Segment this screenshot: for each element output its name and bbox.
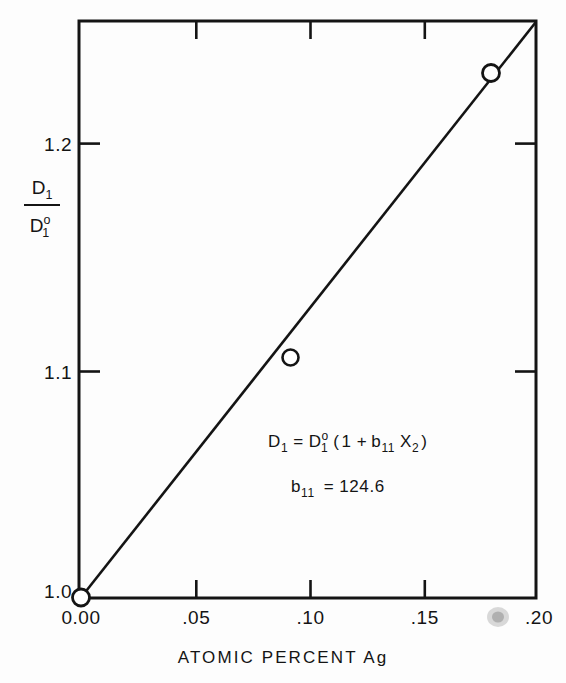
x-tick-label-0.20: .20 [525, 607, 553, 628]
x-tick-label-0.05: .05 [182, 607, 210, 628]
scatter-line-chart: 1.2 1.1 1.0 0.00 .05 .10 .15 .20 ATOMIC … [0, 0, 566, 683]
x-tick-label-0.10: .10 [297, 607, 325, 628]
x-tick-label-0.15: .15 [411, 607, 439, 628]
y-tick-label-1.1: 1.1 [44, 362, 72, 383]
x-tick-label-0.00: 0.00 [62, 607, 101, 628]
data-point-marker [73, 589, 90, 606]
y-tick-label-1.2: 1.2 [44, 134, 72, 155]
y-tick-label-1.0: 1.0 [44, 581, 72, 602]
data-point-marker [483, 65, 500, 82]
data-point-marker [283, 350, 299, 366]
figure-page: 1.2 1.1 1.0 0.00 .05 .10 .15 .20 ATOMIC … [0, 0, 566, 683]
y-axis-label-denominator: Do1 [30, 213, 51, 240]
scan-smudge-core [492, 612, 504, 623]
x-axis-title: ATOMIC PERCENT Ag [178, 648, 388, 667]
